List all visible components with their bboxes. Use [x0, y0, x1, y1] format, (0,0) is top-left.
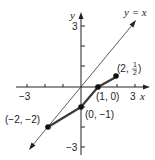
y-min-label: −3: [66, 142, 78, 153]
y-axis-arrow-icon: [79, 12, 84, 19]
x-axis-label: x: [139, 90, 145, 102]
point-2-half: [113, 73, 119, 79]
coordinate-graph: −3 3 x y 3 −3 y = x (−2, −2) (0, −1) (1,…: [0, 0, 155, 160]
svg-text:): ): [138, 63, 141, 74]
point-0-neg1: [78, 104, 84, 110]
svg-text:1: 1: [133, 61, 137, 68]
point-neg2-neg2: [45, 124, 51, 130]
x-max-label: 3: [130, 91, 136, 102]
svg-text:(2,: (2,: [117, 63, 129, 74]
point-label-2-half: (2, 1 2 ): [117, 61, 141, 76]
x-axis: [16, 85, 150, 90]
x-min-label: −3: [19, 91, 31, 102]
point-label-neg2-neg2: (−2, −2): [5, 114, 40, 125]
point-label-0-neg1: (0, −1): [85, 109, 114, 120]
identity-line-label: y = x: [123, 6, 147, 18]
y-max-label: 3: [72, 21, 78, 32]
y-axis: [79, 12, 84, 155]
svg-text:2: 2: [133, 69, 137, 76]
point-label-1-0: (1, 0): [96, 91, 119, 102]
y-axis-label: y: [69, 9, 75, 21]
x-axis-arrow-icon: [143, 85, 150, 90]
identity-arrow-up-icon: [130, 20, 137, 28]
identity-arrow-down-icon: [29, 143, 36, 151]
point-1-0: [95, 84, 101, 90]
